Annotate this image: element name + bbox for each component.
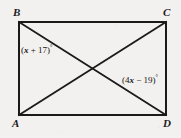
angle-d-prefix: (4 — [122, 75, 130, 85]
geometry-figure: B C A D (x + 17)° (4x − 19)° — [0, 0, 181, 138]
angle-b-constant: 17 — [38, 45, 47, 55]
angle-expression-at-d: (4x − 19)° — [122, 74, 158, 85]
vertex-label-c: C — [163, 7, 170, 18]
figure-canvas — [0, 0, 181, 138]
angle-expression-at-b: (x + 17)° — [21, 44, 52, 55]
angle-b-operator: + — [29, 45, 39, 55]
angle-d-operator: − — [134, 75, 144, 85]
vertex-label-a: A — [12, 118, 19, 129]
degree-symbol-icon: ° — [50, 44, 52, 50]
vertex-label-b: B — [13, 7, 20, 18]
vertex-label-d: D — [163, 118, 171, 129]
degree-symbol-icon: ° — [156, 74, 158, 80]
angle-d-constant: 19 — [144, 75, 153, 85]
